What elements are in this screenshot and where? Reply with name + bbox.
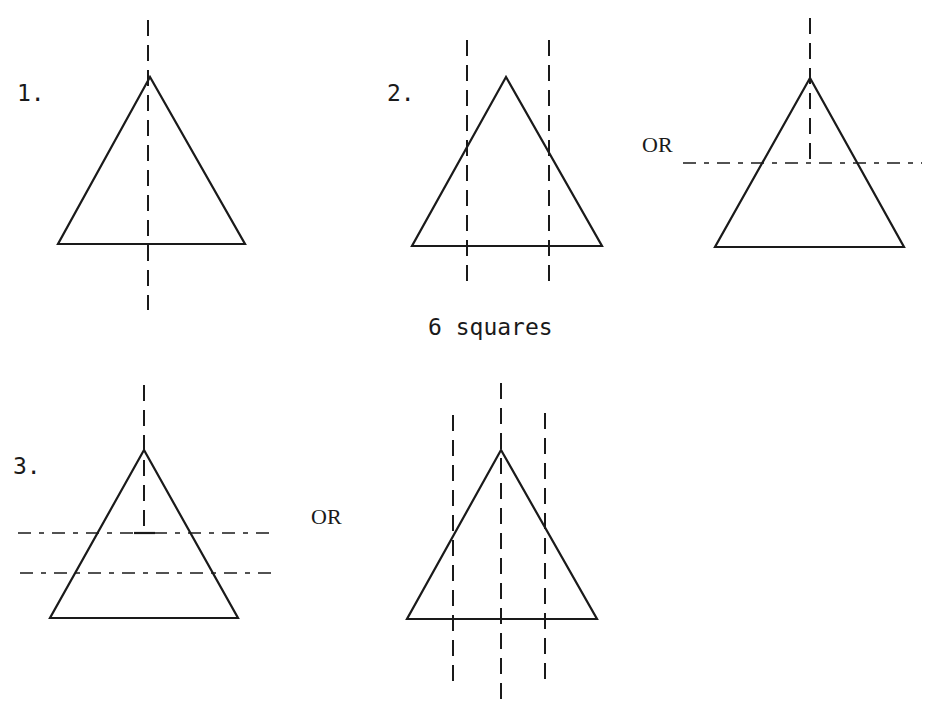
triangle-outline: [58, 77, 245, 244]
figure-3a: [18, 385, 279, 618]
figure-2-label: 2.: [387, 82, 415, 105]
figure-1: [58, 20, 245, 310]
figure-3-or-label: OR: [311, 506, 342, 528]
figure-3b: [407, 383, 597, 707]
diagram-canvas: 1. 2. OR 6 squares 3. OR: [0, 0, 926, 710]
figure-2-or-label: OR: [642, 134, 673, 156]
figure-2a: [412, 40, 602, 286]
triangle-outline: [412, 77, 602, 246]
six-squares-caption: 6 squares: [428, 316, 553, 339]
figure-2b: [683, 18, 922, 247]
triangle-dissection-drawing: [0, 0, 926, 710]
figure-3-label: 3.: [13, 455, 41, 478]
figure-1-label: 1.: [17, 82, 45, 105]
